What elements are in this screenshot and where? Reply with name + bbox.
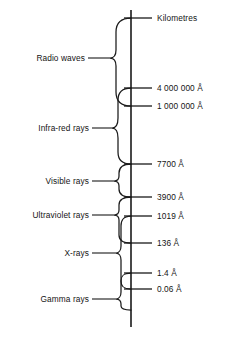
band-label-infra-red-rays: Infra-red rays [38, 124, 89, 132]
scale-label-1000000: 1 000 000 Å [157, 102, 203, 110]
bracket-infrared [112, 88, 131, 164]
spectrum-graphics [0, 0, 226, 339]
bracket-xrays [116, 216, 131, 289]
scale-label-1p4: 1.4 Å [157, 269, 177, 277]
spectrum-diagram: Kilometres 4 000 000 Å 1 000 000 Å 7700 … [0, 0, 226, 339]
band-label-x-rays: X-rays [64, 249, 89, 257]
band-label-visible-rays: Visible rays [46, 177, 89, 185]
bracket-gamma [116, 273, 131, 310]
scale-label-7700: 7700 Å [157, 160, 184, 168]
scale-label-kilometres: Kilometres [157, 14, 197, 22]
scale-label-4000000: 4 000 000 Å [157, 84, 203, 92]
band-label-gamma-rays: Gamma rays [41, 295, 89, 303]
bracket-visible [114, 164, 131, 197]
scale-label-3900: 3900 Å [157, 193, 184, 201]
band-label-ultraviolet-rays: Ultraviolet rays [33, 211, 89, 219]
scale-label-0p06: 0.06 Å [157, 285, 182, 293]
band-label-radio-waves: Radio waves [36, 54, 85, 62]
scale-label-136: 136 Å [157, 239, 179, 247]
scale-label-1019: 1019 Å [157, 212, 184, 220]
